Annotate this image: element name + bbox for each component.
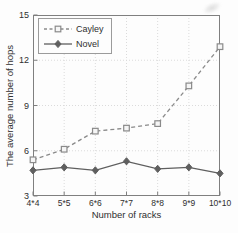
legend-item-cayley: Cayley — [44, 22, 104, 35]
diamond-marker — [217, 170, 223, 177]
square-marker — [155, 121, 161, 127]
diamond-marker — [30, 167, 36, 174]
x-axis-title: Number of racks — [33, 209, 220, 220]
square-marker — [61, 146, 67, 152]
square-marker — [30, 157, 36, 163]
y-tick-label: 15 — [0, 10, 29, 20]
y-tick-label: 9 — [0, 101, 29, 111]
y-tick-label: 12 — [0, 55, 29, 65]
square-marker — [93, 128, 99, 134]
chart-figure: The average number of hops Number of rac… — [0, 0, 238, 233]
legend-item-novel: Novel — [44, 37, 104, 50]
square-marker — [55, 26, 61, 32]
diamond-marker — [123, 158, 129, 165]
novel-solid-diamond-sample-icon — [44, 39, 72, 49]
diamond-marker — [55, 40, 61, 47]
y-tick-label: 6 — [0, 146, 29, 156]
square-marker — [124, 125, 130, 131]
diamond-marker — [155, 165, 161, 172]
diamond-marker — [61, 164, 67, 171]
diamond-marker — [186, 164, 192, 171]
square-marker — [186, 83, 192, 89]
diamond-marker — [92, 167, 98, 174]
legend-label-novel: Novel — [76, 39, 99, 49]
x-tick-label: 10*10 — [200, 198, 238, 208]
square-marker — [217, 44, 223, 50]
legend: Cayley Novel — [38, 18, 112, 54]
legend-label-cayley: Cayley — [76, 24, 104, 34]
cayley-dashed-square-sample-icon — [44, 24, 72, 34]
